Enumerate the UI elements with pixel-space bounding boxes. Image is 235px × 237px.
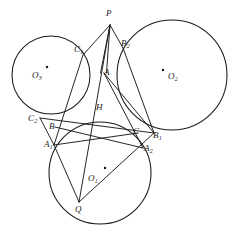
circle-label-sub-O1: 1	[95, 178, 98, 184]
segment-Q-A1	[54, 145, 79, 202]
center-dot-O2	[162, 69, 165, 72]
circle-label-O2: O2	[168, 72, 178, 82]
point-label-C: C	[133, 127, 139, 136]
segment-Q-B1	[79, 133, 154, 202]
geometry-figure: PQABCHA1A2B1B2C1C2O1O2O3	[0, 0, 235, 237]
point-label-C1: C1	[74, 45, 83, 55]
point-label-C2: C2	[28, 114, 37, 124]
point-label-Q: Q	[75, 205, 82, 214]
point-label-sub-A2: 2	[150, 148, 153, 154]
point-label-sub-C1: 1	[80, 49, 83, 55]
point-label-A1: A1	[44, 140, 53, 150]
point-label-B: B	[49, 122, 55, 131]
center-dot-O1	[104, 167, 107, 170]
circle-label-sub-O2: 2	[175, 76, 178, 82]
center-dot-O3	[46, 66, 49, 69]
point-label-sub-C2: 2	[34, 118, 37, 124]
circle-label-O1: O1	[88, 174, 98, 184]
point-label-P: P	[106, 9, 112, 18]
segment-A-B1	[104, 73, 154, 133]
circles-group	[12, 20, 227, 224]
point-label-B2: B2	[121, 39, 130, 49]
point-label-A2: A2	[144, 144, 153, 154]
point-label-sub-A1: 1	[50, 144, 53, 150]
point-label-H: H	[96, 103, 103, 112]
circle-label-O3: O3	[32, 71, 42, 81]
segment-C1-A1	[54, 55, 83, 145]
point-label-sub-B1: 1	[159, 135, 162, 141]
point-label-B1: B1	[153, 131, 162, 141]
point-label-sub-B2: 2	[127, 43, 130, 49]
circle-label-sub-O3: 3	[39, 75, 42, 81]
segment-B2-B1	[123, 48, 154, 133]
point-label-A: A	[104, 68, 110, 77]
